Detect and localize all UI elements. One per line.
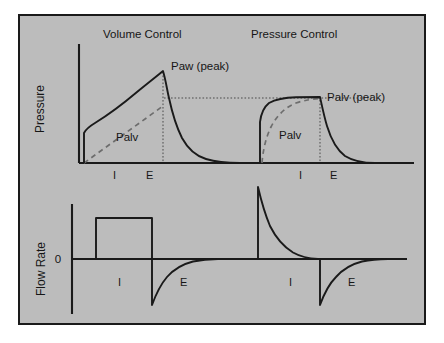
flow-curve-pressure-control — [258, 187, 402, 305]
ventilator-waveform-figure: Volume Control Pressure Control Pressure… — [0, 0, 444, 343]
flow-zero-tick-label: 0 — [55, 253, 61, 265]
waveform-svg: Volume Control Pressure Control Pressure… — [0, 0, 444, 343]
paw-peak-label: Paw (peak) — [171, 60, 229, 72]
pressure-pc-inspiration-label: I — [299, 169, 302, 181]
palv-label-pressure-control: Palv — [279, 129, 302, 141]
paw-curve-volume-control — [84, 71, 253, 163]
flow-axes — [72, 204, 407, 314]
flow-curve-volume-control — [72, 218, 232, 305]
palv-peak-label: Palv (peak) — [327, 91, 385, 103]
flow-axis-label: Flow Rate — [34, 242, 48, 296]
pressure-axis-label: Pressure — [33, 85, 47, 133]
flow-vc-inspiration-label: I — [118, 276, 121, 288]
pressure-pc-expiration-label: E — [330, 169, 337, 181]
palv-label-volume-control: Palv — [116, 131, 139, 143]
pressure-vc-inspiration-label: I — [113, 169, 116, 181]
flow-pc-expiration-label: E — [348, 276, 355, 288]
pressure-axes — [79, 44, 414, 163]
flow-pc-inspiration-label: I — [289, 276, 292, 288]
pressure-vc-expiration-label: E — [146, 169, 153, 181]
title-pressure-control: Pressure Control — [251, 28, 337, 40]
flow-vc-expiration-label: E — [180, 276, 187, 288]
title-volume-control: Volume Control — [103, 28, 182, 40]
